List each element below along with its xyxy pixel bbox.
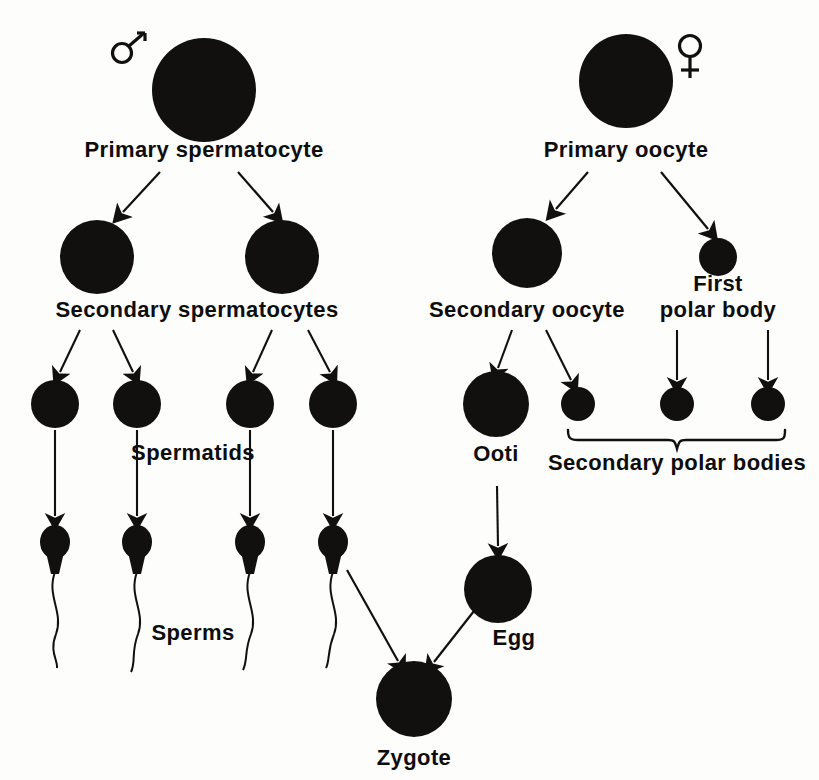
arrow-secondary-oocyte-to-ootid	[498, 330, 512, 368]
female-symbol-icon	[680, 36, 701, 79]
spermatid-cell-2	[113, 380, 161, 428]
secondary-polar-body-cell-3	[751, 387, 785, 421]
arrow-egg-to-zygote	[434, 611, 474, 662]
spermatid-cell-1	[31, 380, 79, 428]
secondary-oocyte-label: Secondary oocyte	[429, 297, 625, 322]
primary-oocyte-label: Primary oocyte	[544, 137, 709, 162]
sperms-label: Sperms	[151, 620, 234, 645]
arrow-secondary2-to-spermatid-3	[253, 330, 272, 372]
secondary-polar-body-cell-2	[660, 387, 694, 421]
egg-label: Egg	[493, 625, 536, 650]
arrow-primary-to-secondary-left	[123, 172, 160, 212]
secondary-spermatocyte-cell-1	[60, 220, 134, 294]
primary-spermatocyte-label: Primary spermatocyte	[84, 137, 323, 162]
first-polar-body-label-line2: polar body	[660, 297, 777, 322]
spermatids-label: Spermatids	[131, 440, 255, 465]
arrow-primary-oocyte-to-secondary-oocyte	[556, 172, 588, 209]
secondary-polar-bodies-brace	[568, 430, 785, 449]
ootid-label: Ooti	[473, 441, 519, 466]
secondary-polar-bodies-label: Secondary polar bodies	[548, 450, 806, 475]
sperm-4	[318, 525, 348, 668]
arrow-secondary2-to-spermatid-4	[308, 330, 330, 372]
primary-spermatocyte-cell	[152, 38, 256, 142]
egg-cell	[464, 555, 532, 623]
secondary-polar-body-cell-1	[561, 387, 595, 421]
arrow-sperm-to-zygote	[347, 570, 398, 661]
secondary-spermatocytes-label: Secondary spermatocytes	[55, 297, 338, 322]
first-polar-body-label-line1: First	[693, 271, 743, 296]
secondary-spermatocyte-cell-2	[245, 220, 319, 294]
arrow-secondary-oocyte-to-polar-body-1	[546, 330, 571, 380]
arrow-secondary1-to-spermatid-1	[60, 330, 80, 372]
male-symbol-icon	[113, 33, 146, 63]
zygote-cell	[376, 661, 452, 737]
spermatid-cell-3	[226, 380, 274, 428]
arrow-primary-to-secondary-right	[238, 172, 273, 212]
secondary-oocyte-cell	[492, 218, 562, 288]
sperm-3	[235, 525, 265, 670]
arrow-ootid-to-egg	[497, 486, 498, 546]
sperm-1	[40, 525, 70, 668]
sperm-2	[122, 525, 152, 672]
arrow-secondary1-to-spermatid-2	[113, 330, 133, 372]
gametogenesis-diagram: Primary spermatocyte Secondary spermatoc…	[0, 0, 819, 780]
zygote-label: Zygote	[377, 745, 452, 770]
primary-oocyte-cell	[579, 34, 673, 128]
spermatid-cell-4	[309, 380, 357, 428]
ootid-cell	[463, 371, 529, 437]
diagram-canvas: Primary spermatocyte Secondary spermatoc…	[0, 0, 819, 780]
arrow-primary-oocyte-to-first-polar-body	[661, 172, 708, 229]
